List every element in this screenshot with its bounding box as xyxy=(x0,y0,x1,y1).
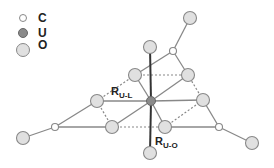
label-r-ul: RU-L xyxy=(111,85,132,100)
u-o-bond xyxy=(151,100,203,101)
uranyl-bond-top xyxy=(150,47,151,101)
oxygen-atom xyxy=(144,41,157,54)
oxygen-atom xyxy=(182,69,195,82)
carbon-atom xyxy=(216,124,223,131)
uranyl-tricarbonate-diagram: C U O xyxy=(0,0,274,168)
legend-carbon-atom-icon xyxy=(20,15,27,22)
legend-oxygen-atom-icon xyxy=(17,44,30,57)
oxygen-atom xyxy=(197,94,210,107)
legend-uranium-atom-icon xyxy=(19,29,28,38)
label-r-uo: RU-O xyxy=(155,135,178,150)
oxygen-atom xyxy=(17,132,30,145)
oxygen-atoms xyxy=(17,12,259,160)
label-r-ul-sub: U-L xyxy=(119,91,132,100)
oxygen-atom xyxy=(129,69,142,82)
oxygen-atom xyxy=(184,12,197,25)
oxygen-atom xyxy=(144,147,157,160)
legend-label-o: O xyxy=(38,38,47,52)
carbon-atom xyxy=(52,124,59,131)
legend-label-c: C xyxy=(38,11,47,25)
c-o-bond xyxy=(55,101,97,127)
carbon-atom xyxy=(170,48,177,55)
uranyl-bond-bottom xyxy=(150,101,151,153)
uranium-atom xyxy=(147,97,156,106)
legend: C U O xyxy=(17,11,48,57)
label-r-uo-main: R xyxy=(155,135,163,147)
oxygen-atom xyxy=(246,137,259,150)
oxygen-atom xyxy=(159,121,172,134)
label-r-uo-sub: U-O xyxy=(163,141,178,150)
label-r-ul-main: R xyxy=(111,85,119,97)
oxygen-atom xyxy=(91,95,104,108)
oxygen-atom xyxy=(106,121,119,134)
